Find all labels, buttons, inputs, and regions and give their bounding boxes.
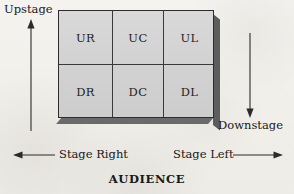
stage-left-arrow-icon bbox=[233, 151, 283, 158]
upstage-arrow-icon bbox=[27, 19, 34, 131]
stage-cell-dc: DC bbox=[113, 65, 163, 119]
stage-right-arrow-icon bbox=[13, 151, 55, 158]
stage-cell-uc: UC bbox=[113, 11, 163, 64]
audience-label: AUDIENCE bbox=[0, 172, 294, 186]
stage-floor: UR UC UL DR DC DL bbox=[58, 10, 214, 118]
stage-areas-diagram: UR UC UL DR DC DL bbox=[0, 0, 294, 194]
stage-left-label: Stage Left bbox=[173, 147, 234, 161]
stage-cell-dr: DR bbox=[59, 65, 112, 119]
downstage-label: Downstage bbox=[218, 118, 283, 132]
stage-cell-ur: UR bbox=[59, 11, 112, 64]
upstage-label: Upstage bbox=[4, 2, 53, 16]
stage-cell-dl: DL bbox=[164, 65, 215, 119]
stage-right-label: Stage Right bbox=[59, 147, 128, 161]
downstage-arrow-icon bbox=[246, 33, 253, 118]
stage-cell-ul: UL bbox=[164, 11, 215, 64]
